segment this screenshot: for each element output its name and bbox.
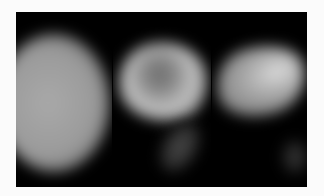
uptake-region — [212, 34, 307, 128]
uptake-focus — [282, 140, 307, 174]
image-frame — [16, 12, 307, 187]
uptake-tail — [152, 115, 208, 179]
panel-3 — [212, 12, 307, 187]
panel-1 — [16, 12, 112, 187]
uptake-region — [16, 34, 110, 172]
uptake-region — [113, 34, 211, 131]
panel-2 — [113, 12, 211, 187]
